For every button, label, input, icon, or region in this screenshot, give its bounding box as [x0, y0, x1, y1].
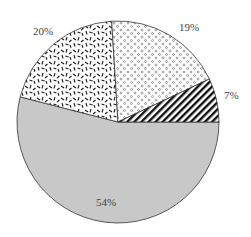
slice-label: 54% [96, 196, 116, 208]
slice-label: 7% [224, 89, 239, 101]
slice-label: 20% [33, 25, 53, 37]
pie-slices [17, 21, 219, 223]
slice-label: 19% [179, 21, 199, 33]
pie-chart: 54%20%19%7% [0, 0, 251, 237]
